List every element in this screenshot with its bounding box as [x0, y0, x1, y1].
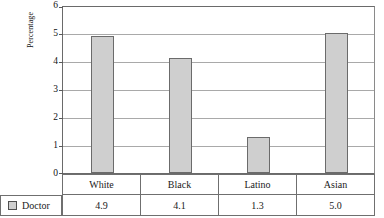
bar-latino[interactable]	[247, 137, 270, 173]
bar-black[interactable]	[169, 58, 192, 173]
table-header-white: White	[62, 174, 141, 195]
table-value-black: 4.1	[141, 195, 219, 216]
legend-label: Doctor	[22, 201, 50, 211]
table-header-black: Black	[141, 174, 219, 195]
bar-white[interactable]	[91, 36, 114, 173]
table-value-latino: 1.3	[219, 195, 297, 216]
y-tick-label-2: 2	[44, 113, 58, 123]
y-axis-title: Percentage	[26, 0, 38, 70]
data-table: White Black Latino Asian 4.9 4.1 1.3 5.0…	[0, 174, 375, 216]
y-tick-mark-3	[59, 90, 63, 91]
table-value-white: 4.9	[62, 195, 141, 216]
table-header-latino: Latino	[219, 174, 297, 195]
legend-swatch-icon	[8, 201, 17, 210]
chart-container: Percentage 6 5 4 3 2 1 0	[0, 0, 384, 218]
y-tick-label-6: 6	[44, 1, 58, 11]
y-tick-label-3: 3	[44, 85, 58, 95]
y-tick-label-4: 4	[44, 57, 58, 67]
legend-entry-doctor[interactable]: Doctor	[0, 195, 62, 216]
table-row-categories: White Black Latino Asian	[0, 174, 375, 195]
y-tick-mark-2	[59, 118, 63, 119]
plot-inner	[63, 7, 374, 173]
table-header-asian: Asian	[297, 174, 375, 195]
y-tick-mark-4	[59, 62, 63, 63]
y-tick-mark-1	[59, 146, 63, 147]
table-value-asian: 5.0	[297, 195, 375, 216]
y-tick-label-5: 5	[44, 29, 58, 39]
y-tick-label-1: 1	[44, 141, 58, 151]
y-tick-mark-5	[59, 34, 63, 35]
plot-area	[62, 6, 375, 174]
bar-asian[interactable]	[325, 33, 348, 173]
y-tick-mark-6	[59, 7, 63, 8]
